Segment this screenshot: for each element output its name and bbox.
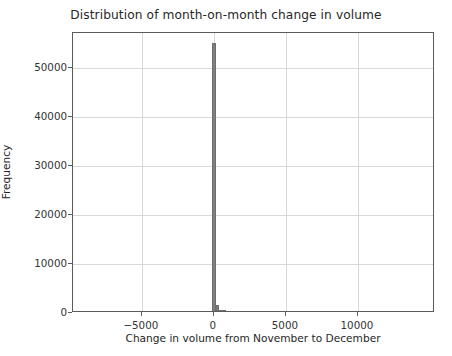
x-axis-ticks: −50000500010000 (0, 0, 452, 356)
x-tick-label: 5000 (272, 319, 298, 331)
histogram-figure: Distribution of month-on-month change in… (0, 0, 452, 356)
x-tick-mark (357, 312, 358, 316)
x-tick-label: 0 (210, 319, 217, 331)
x-tick-label: −5000 (123, 319, 158, 331)
x-tick-mark (285, 312, 286, 316)
y-axis-label: Frequency (0, 145, 12, 200)
x-tick-label: 10000 (341, 319, 374, 331)
x-axis-label: Change in volume from November to Decemb… (72, 332, 434, 344)
x-tick-mark (141, 312, 142, 316)
x-tick-mark (213, 312, 214, 316)
